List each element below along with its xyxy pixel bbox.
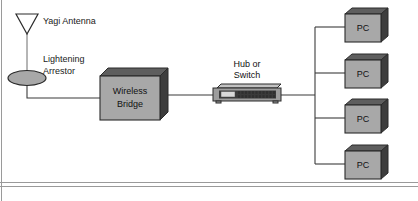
wireless-bridge-label-line1: Wireless [113, 86, 148, 96]
pc-node-2: PC [345, 54, 388, 88]
pc-node-4: PC [345, 145, 388, 179]
network-diagram: Yagi Antenna Lightening Arrestor Wireles… [0, 0, 418, 201]
lightening-arrestor-label-line1: Lightening [43, 54, 85, 64]
hub-or-switch-label-line1: Hub or [233, 59, 260, 69]
hub-or-switch-label-line2: Switch [234, 70, 261, 80]
yagi-antenna-label: Yagi Antenna [43, 16, 96, 26]
lightening-arrestor-label-line2: Arrestor [43, 66, 75, 76]
pc-label-3: PC [357, 114, 370, 124]
pc-label-1: PC [357, 23, 370, 33]
wireless-bridge-label-line2: Bridge [117, 99, 143, 109]
lightening-arrestor-icon [8, 71, 46, 86]
pc-label-4: PC [357, 160, 370, 170]
yagi-antenna-icon [16, 14, 38, 34]
link-arrestor-to-bridge [27, 85, 100, 98]
pc-node-3: PC [345, 99, 388, 133]
pc-label-2: PC [357, 69, 370, 79]
hub-or-switch-icon [213, 84, 281, 103]
pc-node-1: PC [345, 8, 388, 42]
diagram-canvas: Yagi Antenna Lightening Arrestor Wireles… [0, 0, 418, 201]
wireless-bridge-node: Wireless Bridge [100, 68, 168, 120]
